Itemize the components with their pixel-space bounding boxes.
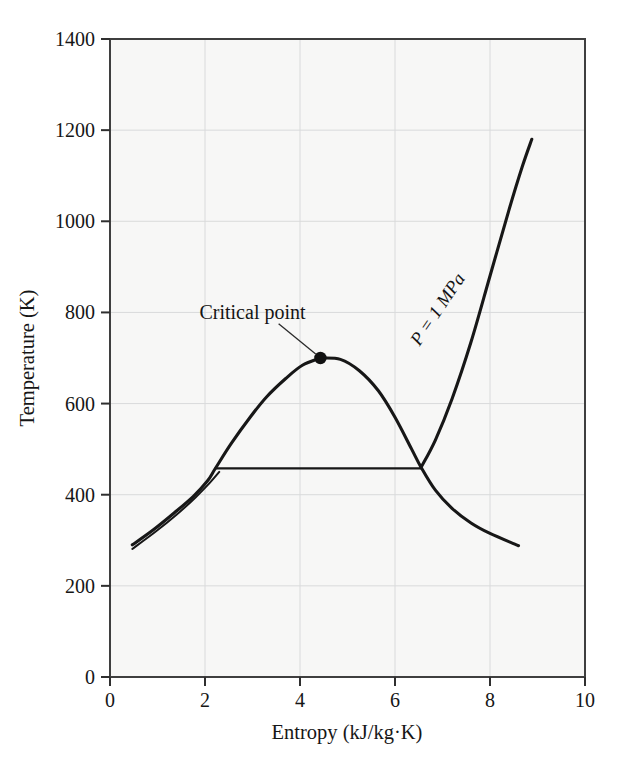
y-tick-label: 0: [85, 666, 95, 688]
y-tick-label: 400: [65, 484, 95, 506]
y-axis-title: Temperature (K): [16, 290, 39, 427]
x-tick-label: 0: [105, 689, 115, 711]
x-axis-title: Entropy (kJ/kg·K): [272, 721, 423, 744]
x-tick-label: 2: [200, 689, 210, 711]
x-tick-label: 8: [485, 689, 495, 711]
x-tick-label: 10: [575, 689, 595, 711]
y-tick-label: 800: [65, 301, 95, 323]
plot-area-background: [110, 39, 585, 677]
y-tick-label: 1200: [55, 119, 95, 141]
y-tick-label: 600: [65, 393, 95, 415]
x-tick-label: 4: [295, 689, 305, 711]
x-tick-label: 6: [390, 689, 400, 711]
critical-point-marker: [314, 352, 326, 364]
ts-diagram-figure: 0246810 0200400600800100012001400 Entrop…: [0, 0, 627, 778]
y-tick-label: 1400: [55, 28, 95, 50]
y-tick-label: 200: [65, 575, 95, 597]
critical-point-label: Critical point: [199, 301, 306, 324]
y-tick-label: 1000: [55, 210, 95, 232]
chart-svg: 0246810 0200400600800100012001400 Entrop…: [0, 0, 627, 778]
